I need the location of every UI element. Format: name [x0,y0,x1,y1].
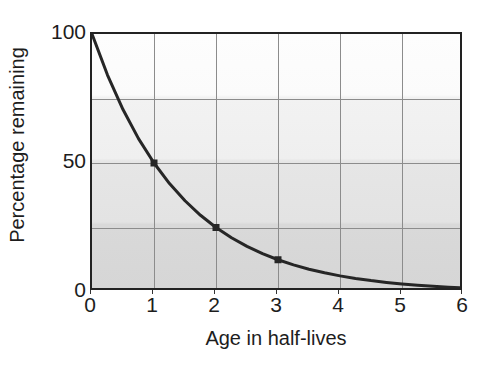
data-point-marker [151,160,158,167]
data-point-marker [213,224,220,231]
x-axis-tick-labels: 0123456 [90,294,462,322]
x-tick-label: 0 [70,294,110,315]
y-tick-label: 50 [30,150,86,171]
x-axis-label: Age in half-lives [90,327,462,350]
plot-area [90,32,462,290]
y-axis-tick-labels: 050100 [26,0,86,372]
x-tick-label: 6 [442,294,482,315]
decay-curve-figure: Percentage remaining 050100 0123456 Age … [0,0,485,372]
x-tick-label: 4 [318,294,358,315]
data-point-marker [275,256,282,263]
x-tick-label: 3 [256,294,296,315]
x-tick-label: 2 [194,294,234,315]
y-tick-label: 100 [30,21,86,42]
curve-path [92,34,462,288]
x-tick-label: 1 [132,294,172,315]
x-tick-label: 5 [380,294,420,315]
decay-curve [92,34,462,290]
